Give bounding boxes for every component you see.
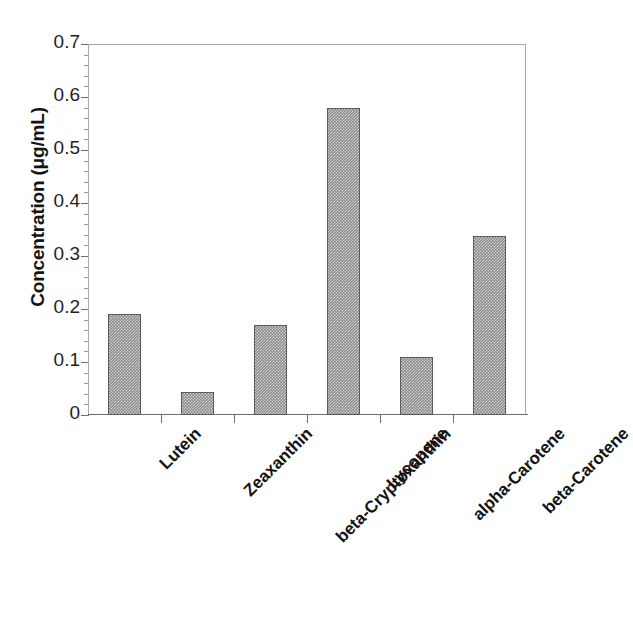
bar-beta-carotene	[473, 236, 506, 415]
x-tick	[380, 415, 381, 423]
x-tick	[453, 415, 454, 423]
bar-zeaxanthin	[181, 392, 214, 415]
y-tick-major	[81, 203, 88, 204]
y-tick-major	[81, 44, 88, 45]
x-tick	[161, 415, 162, 423]
bar-beta-cryptoxanthin	[254, 325, 287, 415]
y-tick-major	[81, 150, 88, 151]
bar-lutein	[108, 314, 141, 415]
x-axis-label: Zeaxanthin	[240, 424, 317, 501]
y-tick-label: 0.7	[16, 31, 80, 53]
x-axis-label: Lutein	[156, 424, 206, 474]
bar-alpha-carotene	[400, 357, 433, 415]
bar-lycopene	[327, 108, 360, 415]
plot-area	[88, 44, 526, 415]
y-tick-label: 0.2	[16, 296, 80, 318]
y-tick-major	[81, 362, 88, 363]
x-tick	[234, 415, 235, 423]
y-tick-label: 0.4	[16, 190, 80, 212]
y-tick-major	[81, 309, 88, 310]
y-tick-label: 0.1	[16, 349, 80, 371]
y-tick-major	[81, 415, 88, 416]
y-tick-label: 0.6	[16, 84, 80, 106]
y-tick-label: 0	[16, 402, 80, 424]
y-tick-label: 0.5	[16, 137, 80, 159]
y-tick-major	[81, 97, 88, 98]
x-axis-label: Lycopene	[383, 424, 452, 493]
y-axis-tick-labels: 0.70.60.50.40.30.20.10	[8, 0, 80, 623]
y-tick-major	[81, 256, 88, 257]
x-tick	[307, 415, 308, 423]
y-tick-label: 0.3	[16, 243, 80, 265]
